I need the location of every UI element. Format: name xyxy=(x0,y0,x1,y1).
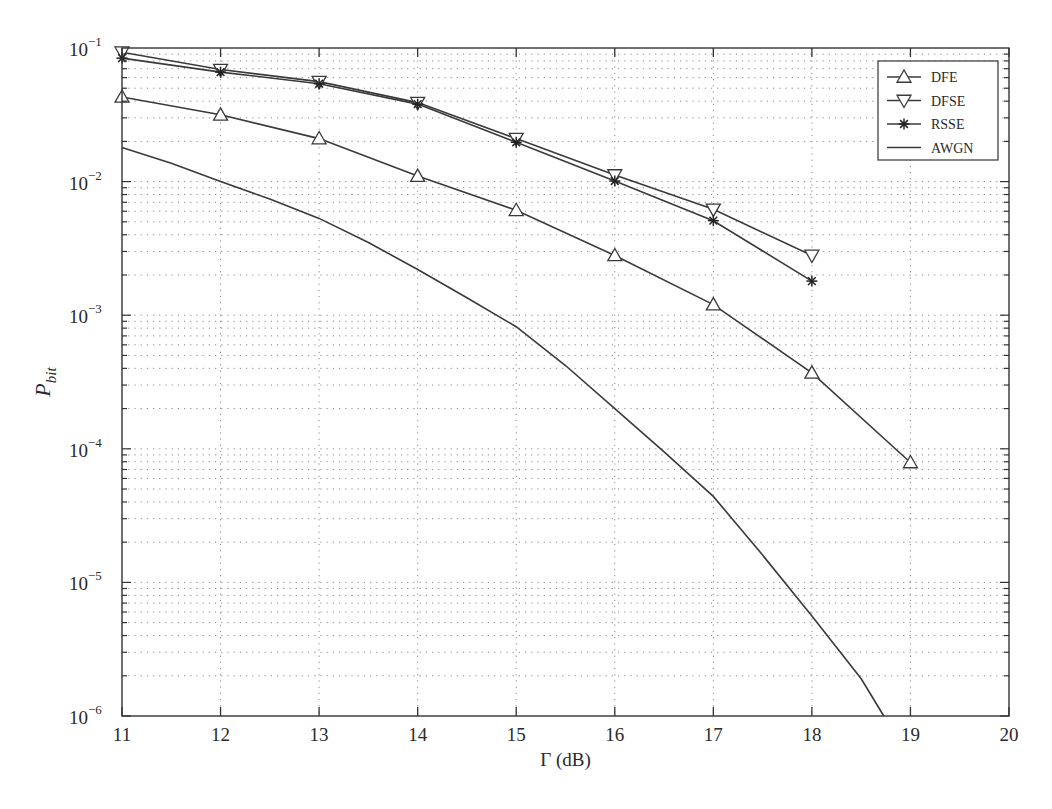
x-axis-tick-labels: 11121314151617181920 xyxy=(113,724,1019,745)
dfse-triangle-down-marker-icon xyxy=(706,204,720,216)
x-tick-label: 17 xyxy=(704,724,723,745)
y-tick-label: 10 xyxy=(69,440,88,461)
x-tick-label: 13 xyxy=(310,724,329,745)
axis-ticks xyxy=(122,48,1009,716)
y-axis-label-main: P xyxy=(30,383,55,397)
series-line-awgn xyxy=(122,148,884,717)
y-tick-exponent: −3 xyxy=(88,301,102,316)
data-series xyxy=(115,47,917,716)
dfe-triangle-up-marker-icon xyxy=(608,248,622,260)
chart-figure: 11121314151617181920 10−110−210−310−410−… xyxy=(0,0,1052,809)
rsse-asterisk-marker-icon xyxy=(314,78,325,89)
legend-label: RSSE xyxy=(931,117,964,132)
x-tick-label: 15 xyxy=(507,724,526,745)
dfse-triangle-down-marker-icon xyxy=(805,250,819,262)
legend-rsse-asterisk-marker-icon xyxy=(899,119,910,130)
y-tick-label: 10 xyxy=(69,306,88,327)
y-tick-exponent: −5 xyxy=(88,568,102,583)
y-tick-exponent: −4 xyxy=(88,435,102,450)
x-axis-label: Γ (dB) xyxy=(540,749,591,771)
x-tick-label: 14 xyxy=(408,724,428,745)
series-line-rsse xyxy=(122,58,812,281)
rsse-asterisk-marker-icon xyxy=(708,215,719,226)
dfe-triangle-up-marker-icon xyxy=(706,298,720,310)
x-tick-label: 19 xyxy=(901,724,920,745)
legend-label: DFSE xyxy=(931,94,965,109)
y-tick-exponent: −6 xyxy=(88,702,102,717)
rsse-asterisk-marker-icon xyxy=(806,276,817,287)
dfe-triangle-up-marker-icon xyxy=(411,169,425,181)
y-tick-exponent: −1 xyxy=(88,34,102,49)
series-line-dfse xyxy=(122,52,812,255)
dfe-triangle-up-marker-icon xyxy=(805,366,819,378)
x-tick-label: 20 xyxy=(1000,724,1019,745)
y-tick-exponent: −2 xyxy=(88,168,102,183)
y-axis-label-subscript: bit xyxy=(43,367,59,384)
series-awgn xyxy=(122,148,884,717)
x-tick-label: 12 xyxy=(211,724,230,745)
y-axis-tick-labels: 10−110−210−310−410−510−6 xyxy=(69,34,102,728)
legend-label: AWGN xyxy=(931,141,973,156)
y-tick-label: 10 xyxy=(69,707,88,728)
rsse-asterisk-marker-icon xyxy=(609,176,620,187)
grid-lines xyxy=(122,48,1009,716)
y-tick-label: 10 xyxy=(69,173,88,194)
y-tick-label: 10 xyxy=(69,39,88,60)
legend: DFEDFSERSSEAWGN xyxy=(878,61,998,160)
y-tick-label: 10 xyxy=(69,573,88,594)
y-axis-label: Pbit xyxy=(30,367,59,398)
plot-frame xyxy=(122,48,1009,716)
x-tick-label: 11 xyxy=(113,724,131,745)
x-tick-label: 18 xyxy=(802,724,821,745)
legend-label: DFE xyxy=(931,70,957,85)
x-tick-label: 16 xyxy=(605,724,624,745)
